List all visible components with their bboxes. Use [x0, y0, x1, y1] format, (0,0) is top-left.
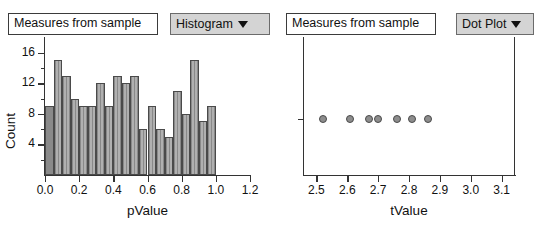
histogram-bar[interactable]: [182, 114, 191, 175]
dotplot-x-tick: [440, 176, 441, 182]
chevron-down-icon: [511, 21, 521, 28]
dotplot-plot-type-menu[interactable]: Dot Plot: [456, 13, 534, 35]
histogram-y-tick-label: 16: [9, 45, 35, 59]
histogram-y-tick: [38, 114, 45, 115]
dotplot-x-tick: [471, 176, 472, 182]
histogram-x-tick-label: 1.2: [234, 183, 266, 197]
histogram-x-tick-label: 0.4: [97, 183, 129, 197]
histogram-y-minor-tick: [41, 99, 45, 100]
histogram-y-tick: [38, 83, 45, 84]
dotplot-y-tick: [298, 119, 304, 120]
dotplot-point[interactable]: [365, 115, 373, 123]
dotplot-x-tick: [409, 176, 410, 182]
histogram-y-tick: [38, 53, 45, 54]
histogram-x-tick-label: 0.2: [63, 183, 95, 197]
histogram-x-tick: [148, 176, 149, 182]
histogram-bar[interactable]: [88, 106, 97, 175]
dotplot-x-tick-label: 2.7: [362, 183, 394, 197]
dotplot-x-tick: [347, 176, 348, 182]
dotplot-x-tick-label: 2.6: [331, 183, 363, 197]
histogram-plot-area[interactable]: 4812160.00.20.40.60.81.01.2pValueCount: [45, 45, 250, 175]
histogram-x-tick: [250, 176, 251, 182]
dotplot-panel: Measures from sample Dot Plot 2.52.62.72…: [278, 0, 541, 237]
dotplot-point[interactable]: [393, 115, 401, 123]
histogram-x-tick: [182, 176, 183, 182]
dotplot-x-tick: [316, 176, 317, 182]
histogram-plot-type-label: Histogram: [176, 15, 233, 34]
dotplot-point[interactable]: [346, 115, 354, 123]
histogram-bar[interactable]: [190, 60, 199, 175]
histogram-y-tick-label: 12: [9, 75, 35, 89]
histogram-x-tick: [216, 176, 217, 182]
histogram-bar[interactable]: [165, 137, 174, 175]
histogram-bar[interactable]: [122, 83, 131, 175]
histogram-plot-type-menu[interactable]: Histogram: [170, 13, 270, 35]
chevron-down-icon: [238, 21, 248, 28]
histogram-bar[interactable]: [45, 106, 54, 175]
histogram-y-tick: [38, 144, 45, 145]
dotplot-plot-type-label: Dot Plot: [462, 15, 506, 34]
dotplot-plot-area[interactable]: 2.52.62.72.82.93.03.1tValue: [304, 45, 514, 175]
histogram-bar[interactable]: [139, 129, 148, 175]
histogram-bar[interactable]: [199, 121, 208, 175]
histogram-bar[interactable]: [62, 76, 71, 175]
histogram-bar[interactable]: [130, 76, 139, 175]
dotplot-point[interactable]: [408, 115, 416, 123]
dotplot-x-tick: [502, 176, 503, 182]
dotplot-x-tick-label: 3.0: [455, 183, 487, 197]
dotplot-x-axis-label: tValue: [304, 203, 514, 218]
histogram-bar[interactable]: [105, 106, 114, 175]
histogram-bar[interactable]: [156, 129, 165, 175]
dotplot-point[interactable]: [374, 115, 382, 123]
dotplot-point[interactable]: [319, 115, 327, 123]
dotplot-point[interactable]: [424, 115, 432, 123]
histogram-bar[interactable]: [71, 99, 80, 175]
dotplot-x-tick-label: 3.1: [486, 183, 518, 197]
dotplot-x-tick-label: 2.8: [393, 183, 425, 197]
histogram-x-tick: [45, 176, 46, 182]
histogram-bar[interactable]: [79, 106, 88, 175]
histogram-x-tick-label: 0.0: [29, 183, 61, 197]
histogram-y-axis-label: Count: [3, 113, 18, 149]
histogram-bar[interactable]: [54, 60, 63, 175]
dotplot-attribute-label[interactable]: Measures from sample: [286, 13, 436, 35]
histogram-attribute-label[interactable]: Measures from sample: [8, 13, 158, 35]
dotplot-x-tick-label: 2.5: [300, 183, 332, 197]
histogram-bar[interactable]: [173, 91, 182, 175]
histogram-bar[interactable]: [148, 106, 157, 175]
histogram-bar[interactable]: [96, 83, 105, 175]
histogram-panel: Measures from sample Histogram 4812160.0…: [0, 0, 278, 237]
dotplot-right-frame: [514, 37, 515, 176]
dotplot-x-tick-label: 2.9: [424, 183, 456, 197]
histogram-bar[interactable]: [113, 76, 122, 175]
dotplot-y-axis: [303, 37, 304, 176]
histogram-x-tick-label: 0.6: [132, 183, 164, 197]
histogram-x-axis-label: pValue: [45, 203, 250, 218]
histogram-x-tick: [113, 176, 114, 182]
histogram-y-minor-tick: [41, 68, 45, 69]
histogram-x-tick-label: 1.0: [200, 183, 232, 197]
dotplot-x-tick: [378, 176, 379, 182]
histogram-x-tick: [79, 176, 80, 182]
histogram-x-tick-label: 0.8: [166, 183, 198, 197]
histogram-bar[interactable]: [207, 106, 216, 175]
